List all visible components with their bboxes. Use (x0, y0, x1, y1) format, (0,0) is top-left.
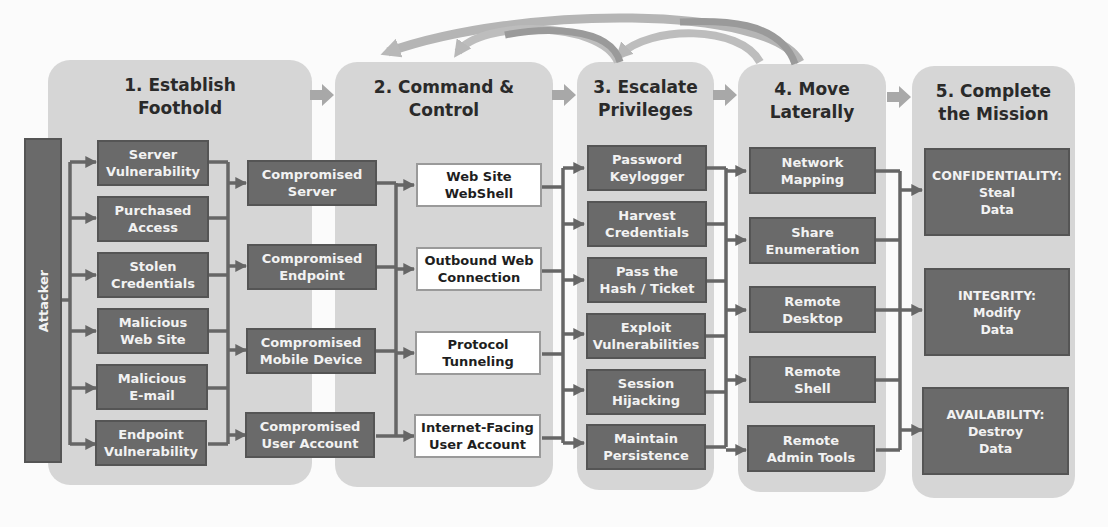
node-label: Harvest (605, 207, 689, 224)
stage-title-line: 2. Command & (335, 76, 553, 99)
node-internet-facing-user-account: Internet-FacingUser Account (414, 414, 541, 458)
node-maintain-persistence: MaintainPersistence (586, 424, 706, 470)
node-label: Access (115, 219, 192, 236)
node-label: Credentials (111, 275, 195, 292)
stage-title-line: the Mission (912, 103, 1075, 126)
node-label: Admin Tools (767, 449, 855, 466)
node-label: INTEGRITY: (958, 287, 1036, 304)
node-endpoint-vulnerability: EndpointVulnerability (95, 420, 207, 466)
node-label: Hijacking (612, 392, 680, 409)
node-availability-destroy-data: AVAILABILITY:DestroyData (922, 387, 1069, 475)
stage-title: 5. Complete the Mission (912, 80, 1075, 126)
node-label: Endpoint (262, 267, 363, 284)
node-label: Keylogger (610, 168, 684, 185)
stage-title: 2. Command & Control (335, 76, 553, 122)
stage-title-line: 5. Complete (912, 80, 1075, 103)
stage-title: 4. Move Laterally (738, 78, 886, 124)
node-label: Compromised (262, 250, 363, 267)
stage-title: 1. Establish Foothold (48, 74, 312, 120)
node-label: Remote (767, 432, 855, 449)
node-label: Steal (932, 184, 1062, 201)
node-label: Destroy (947, 423, 1045, 440)
node-label: CONFIDENTIALITY: (932, 167, 1062, 184)
node-exploit-vulnerabilities: ExploitVulnerabilities (586, 313, 706, 359)
stage-title: 3. Escalate Privileges (577, 76, 714, 122)
node-password-keylogger: PasswordKeylogger (587, 145, 707, 191)
node-label: Password (610, 151, 684, 168)
node-label: Vulnerability (104, 443, 198, 460)
node-label: Tunneling (442, 353, 514, 370)
node-label: Data (947, 440, 1045, 457)
node-compromised-mobile-device: CompromisedMobile Device (246, 328, 376, 374)
node-label: Malicious (118, 370, 187, 387)
node-label: Web Site (445, 168, 513, 185)
node-label: Maintain (603, 430, 689, 447)
node-label: Session (612, 375, 680, 392)
node-label: Mapping (781, 171, 844, 188)
node-label: Share (766, 224, 860, 241)
node-label: Protocol (442, 336, 514, 353)
node-outbound-web-connection: Outbound WebConnection (416, 247, 542, 291)
node-label: Connection (424, 269, 533, 286)
node-label: Malicious (119, 314, 188, 331)
node-share-enumeration: ShareEnumeration (749, 217, 876, 264)
node-malicious-web-site: MaliciousWeb Site (97, 308, 209, 354)
node-label: Server (262, 183, 363, 200)
node-label: Endpoint (104, 426, 198, 443)
node-label: Vulnerabilities (593, 336, 699, 353)
node-remote-shell: RemoteShell (749, 356, 876, 403)
node-purchased-access: PurchasedAccess (97, 196, 209, 242)
node-label: Network (781, 154, 844, 171)
node-session-hijacking: SessionHijacking (586, 369, 706, 415)
node-label: Vulnerability (106, 163, 200, 180)
stage-title-line: Privileges (577, 99, 714, 122)
node-label: Data (958, 321, 1036, 338)
node-compromised-endpoint: CompromisedEndpoint (247, 244, 377, 290)
attacker-node: Attacker (24, 138, 62, 463)
node-confidentiality-steal-data: CONFIDENTIALITY:StealData (924, 148, 1070, 236)
node-label: Hash / Ticket (600, 280, 695, 297)
attacker-label: Attacker (36, 269, 51, 332)
stage-title-line: 3. Escalate (577, 76, 714, 99)
node-protocol-tunneling: ProtocolTunneling (415, 331, 541, 375)
node-label: E-mail (118, 387, 187, 404)
node-label: Remote (784, 363, 840, 380)
node-label: User Account (260, 435, 361, 452)
node-pass-the-hash-ticket: Pass theHash / Ticket (587, 257, 707, 303)
node-label: Compromised (260, 334, 363, 351)
node-label: Server (106, 146, 200, 163)
node-remote-desktop: RemoteDesktop (749, 286, 876, 333)
node-label: Remote (782, 293, 842, 310)
stage-title-line: Laterally (738, 101, 886, 124)
node-label: Credentials (605, 224, 689, 241)
node-label: Internet-Facing (421, 419, 534, 436)
node-label: Purchased (115, 202, 192, 219)
node-label: Data (932, 201, 1062, 218)
node-malicious-email: MaliciousE-mail (96, 364, 208, 410)
node-label: Pass the (600, 263, 695, 280)
node-harvest-credentials: HarvestCredentials (587, 201, 707, 247)
node-server-vulnerability: ServerVulnerability (97, 140, 209, 186)
node-label: WebShell (445, 185, 513, 202)
stage-title-line: Control (335, 99, 553, 122)
node-label: Exploit (593, 319, 699, 336)
node-label: Web Site (119, 331, 188, 348)
node-label: AVAILABILITY: (947, 406, 1045, 423)
node-label: Mobile Device (260, 351, 363, 368)
node-label: Enumeration (766, 241, 860, 258)
node-remote-admin-tools: RemoteAdmin Tools (747, 425, 875, 472)
node-label: User Account (421, 436, 534, 453)
node-label: Modify (958, 304, 1036, 321)
node-label: Compromised (260, 418, 361, 435)
node-compromised-server: CompromisedServer (247, 160, 377, 206)
node-label: Shell (784, 380, 840, 397)
node-label: Outbound Web (424, 252, 533, 269)
node-label: Compromised (262, 166, 363, 183)
stage-title-line: 1. Establish (48, 74, 312, 97)
node-label: Desktop (782, 310, 842, 327)
node-label: Stolen (111, 258, 195, 275)
stage-title-line: Foothold (48, 97, 312, 120)
node-network-mapping: NetworkMapping (749, 147, 876, 194)
node-web-site-webshell: Web SiteWebShell (416, 163, 542, 207)
node-compromised-user-account: CompromisedUser Account (245, 412, 375, 458)
